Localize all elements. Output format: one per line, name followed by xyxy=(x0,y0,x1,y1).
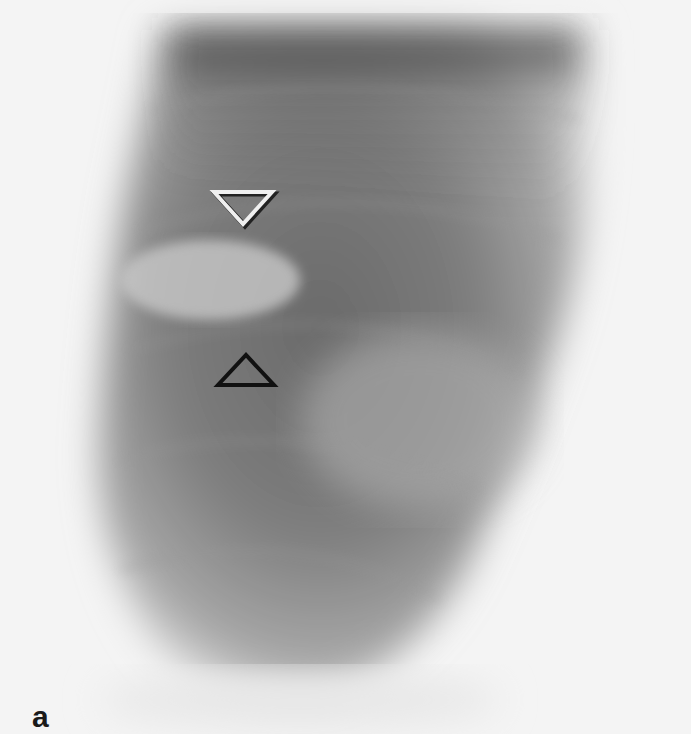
panel-label: a xyxy=(32,700,49,734)
radiograph-image xyxy=(0,0,691,734)
